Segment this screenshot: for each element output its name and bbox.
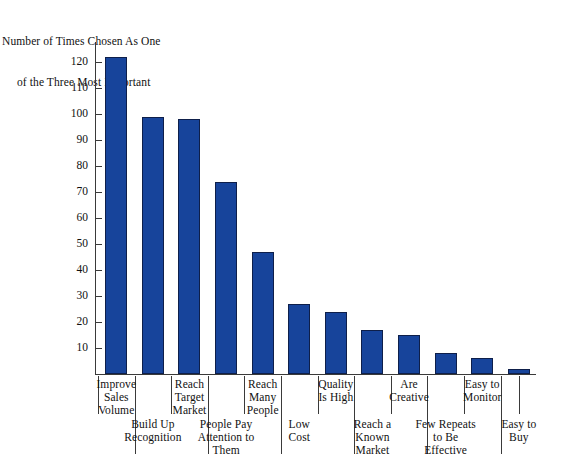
y-axis-caption-line1: Number of Times Chosen As One bbox=[2, 35, 160, 49]
y-axis-tick-label: 90 bbox=[58, 134, 88, 146]
y-axis-tick bbox=[95, 322, 102, 323]
y-axis-tick-label: 10 bbox=[58, 342, 88, 354]
y-axis-tick-label: 70 bbox=[58, 186, 88, 198]
bar bbox=[325, 312, 347, 374]
chart-canvas: Number of Times Chosen As One of the Thr… bbox=[0, 0, 576, 460]
x-axis-line bbox=[95, 374, 536, 375]
category-label: Easy to Buy bbox=[482, 418, 555, 444]
category-label: Few Repeats to Be Effective bbox=[409, 418, 482, 458]
y-axis-tick-label: 20 bbox=[58, 316, 88, 328]
category-label: Reach Target Market bbox=[153, 378, 226, 418]
category-label: People Pay Attention to Them bbox=[189, 418, 262, 458]
y-axis-tick bbox=[95, 296, 102, 297]
bar bbox=[471, 358, 493, 374]
category-label: Easy to Monitor bbox=[446, 378, 519, 404]
y-axis-tick bbox=[95, 192, 102, 193]
y-axis-tick-label: 80 bbox=[58, 160, 88, 172]
cropped-title-remnant bbox=[0, 0, 576, 7]
bar bbox=[508, 369, 530, 374]
y-axis-tick-label: 120 bbox=[58, 56, 88, 68]
y-axis-tick-label: 110 bbox=[58, 82, 88, 94]
bar bbox=[435, 353, 457, 374]
category-separator bbox=[519, 376, 520, 414]
y-axis-tick-label: 60 bbox=[58, 212, 88, 224]
category-label: Reach a Known Market bbox=[336, 418, 409, 458]
y-axis-tick-label: 40 bbox=[58, 264, 88, 276]
y-axis-tick bbox=[95, 218, 102, 219]
y-axis-line bbox=[95, 42, 96, 375]
y-axis-tick bbox=[95, 270, 102, 271]
y-axis-tick bbox=[95, 166, 102, 167]
bar bbox=[398, 335, 420, 374]
y-axis-tick-label: 50 bbox=[58, 238, 88, 250]
y-axis-tick bbox=[95, 348, 102, 349]
bar bbox=[215, 182, 237, 374]
bar bbox=[105, 57, 127, 374]
y-axis-tick-label: 100 bbox=[58, 108, 88, 120]
bar bbox=[142, 117, 164, 374]
category-label: Build Up Recognition bbox=[116, 418, 189, 444]
bar bbox=[252, 252, 274, 374]
y-axis-tick bbox=[95, 62, 102, 63]
y-axis-tick bbox=[95, 244, 102, 245]
bar bbox=[288, 304, 310, 374]
category-label: Low Cost bbox=[263, 418, 336, 444]
y-axis-tick bbox=[95, 88, 102, 89]
bar bbox=[178, 119, 200, 374]
category-label: Improve Sales Volume bbox=[80, 378, 153, 418]
y-axis-tick-label: 30 bbox=[58, 290, 88, 302]
y-axis-tick bbox=[95, 140, 102, 141]
y-axis-tick bbox=[95, 114, 102, 115]
category-label: Reach Many People bbox=[226, 378, 299, 418]
category-label: Quality Is High bbox=[299, 378, 372, 404]
category-label: Are Creative bbox=[372, 378, 445, 404]
bar bbox=[361, 330, 383, 374]
